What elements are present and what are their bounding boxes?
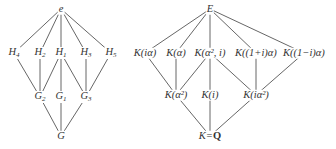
node-Ka2i: K(α², i) (194, 48, 227, 59)
node-H1: H1 (54, 47, 67, 59)
node-Kia: K(iα) (133, 48, 157, 59)
node-H5: H5 (104, 47, 117, 59)
node-E: E (206, 4, 214, 15)
node-Ka: K(α) (165, 48, 187, 59)
lattice-lines (0, 0, 336, 149)
node-G3: G3 (79, 91, 92, 103)
node-H2: H2 (33, 47, 46, 59)
node-G: G (56, 131, 66, 142)
node-Ka2: K(α²) (164, 90, 189, 101)
node-KQ: K=Q (198, 131, 222, 142)
node-Ki: K(i) (201, 90, 220, 101)
node-H4: H4 (7, 47, 20, 59)
node-Kia2: K(iα²) (242, 90, 270, 101)
node-H3: H3 (79, 47, 92, 59)
node-G2: G2 (33, 91, 46, 103)
node-K1mi: K((1−i)α) (282, 48, 326, 59)
node-G1: G1 (54, 91, 67, 103)
node-K1pi: K((1+i)α) (234, 48, 278, 59)
node-e: e (58, 4, 65, 15)
